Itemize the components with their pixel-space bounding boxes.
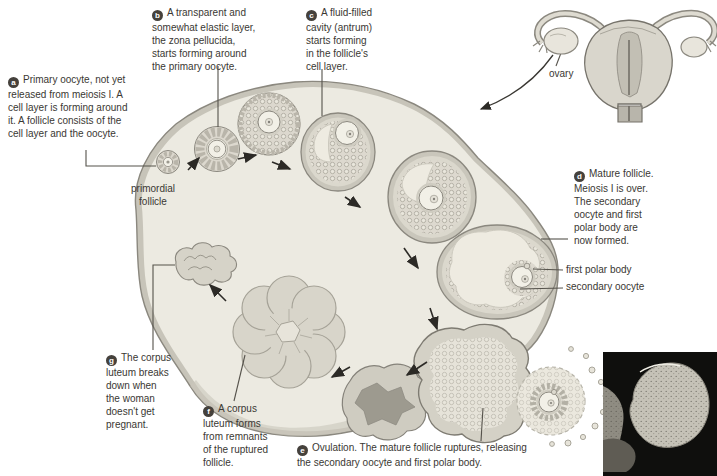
callout-a: aPrimary oocyte, not yet released from m…: [8, 73, 168, 140]
step-badge-c: c: [306, 10, 317, 21]
early-follicle: [195, 127, 240, 172]
released-oocyte: [517, 347, 609, 447]
callout-e-text: Ovulation. The mature follicle ruptures,…: [297, 442, 527, 468]
label-primordial-follicle: primordial follicle: [112, 183, 194, 208]
early-corpus-luteum: [342, 364, 429, 440]
ovulation-burst: [414, 324, 532, 442]
step-badge-b: b: [152, 10, 163, 21]
corpus-luteum: [233, 276, 345, 388]
callout-f: fA corpus luteum forms from remnants of …: [203, 402, 313, 469]
callout-b-text: A transparent and somewhat elastic layer…: [152, 7, 255, 72]
callout-b: bA transparent and somewhat elastic laye…: [152, 6, 288, 73]
callout-d: dMature follicle. Meiosis I is over. The…: [574, 167, 714, 247]
callout-g: gThe corpus luteum breaks down when the …: [106, 351, 210, 431]
mature-follicle: [437, 225, 557, 319]
antral-follicle: [301, 113, 375, 191]
label-first-polar-body: first polar body: [566, 264, 632, 277]
secondary-follicle: [238, 93, 300, 155]
maturing-follicle: [388, 151, 476, 243]
primordial-follicle-drawing: [157, 151, 180, 174]
callout-a-text: Primary oocyte, not yet released from me…: [8, 74, 128, 139]
ovary-pointer-arrow: [481, 55, 553, 109]
ovarian-cycle-figure: aPrimary oocyte, not yet released from m…: [0, 0, 717, 476]
label-secondary-oocyte: secondary oocyte: [566, 281, 644, 294]
callout-d-text: Mature follicle. Meiosis I is over. The …: [574, 168, 653, 246]
step-badge-d: d: [574, 171, 585, 182]
degenerating-corpus-luteum: [175, 243, 236, 285]
label-ovary: ovary: [549, 68, 573, 81]
step-badge-g: g: [106, 355, 117, 366]
callout-e: eOvulation. The mature follicle ruptures…: [297, 441, 627, 469]
step-badge-a: a: [8, 77, 19, 88]
callout-c: cA fluid-filled cavity (antrum) starts f…: [306, 6, 418, 73]
